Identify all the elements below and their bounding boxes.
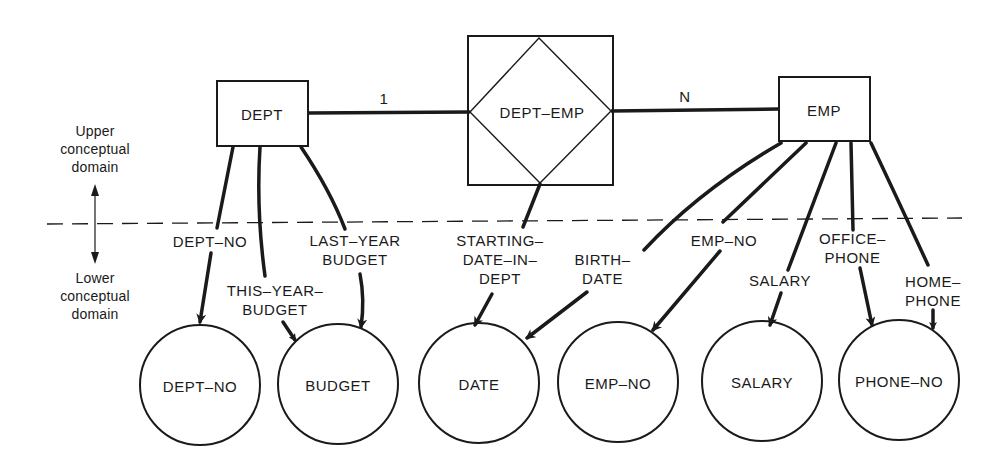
upper-domain-label: Upper conceptual domain: [48, 122, 142, 176]
entity-emp-label: EMP: [807, 102, 841, 119]
attr-line-office-phone-lower: [860, 268, 872, 325]
attr-line-last-year-budget: [301, 147, 345, 229]
attr-line-salary-lower: [770, 293, 781, 325]
value-set-budget-label: BUDGET: [305, 377, 371, 394]
value-set-date-label: DATE: [459, 376, 500, 393]
attr-label-this-year-budget: THIS–YEAR– BUDGET: [215, 281, 335, 319]
attr-line-emp-no-lower: [653, 251, 720, 330]
value-set-emp-no-label: EMP–NO: [585, 375, 651, 392]
value-set-phone-no-label: PHONE–NO: [855, 373, 943, 390]
attr-line-last-year-budget-lower: [360, 274, 363, 327]
attr-line-birth-date-lower: [527, 292, 587, 338]
attr-label-last-year-budget: LAST–YEAR BUDGET: [295, 231, 415, 269]
dept-to-relationship-line: [308, 112, 470, 113]
value-set-dept-no-label: DEPT–NO: [163, 378, 237, 395]
attr-label-emp-no: EMP–NO: [682, 231, 766, 250]
lower-domain-label: Lower conceptual domain: [48, 269, 142, 323]
entity-dept-label: DEPT: [241, 106, 283, 123]
attr-label-starting-date-in-dept: STARTING– DATE–IN– DEPT: [445, 231, 555, 288]
attr-label-salary: SALARY: [740, 271, 820, 290]
attr-line-this-year-budget: [259, 147, 265, 276]
value-set-salary-label: SALARY: [731, 374, 793, 391]
domain-boundary-dashed-line: [47, 218, 962, 224]
attr-line-dept-no-lower: [200, 253, 211, 322]
attr-line-dept-no: [217, 147, 233, 228]
cardinality-right: N: [679, 88, 690, 105]
attr-line-starting-date-in-dept-lower: [475, 294, 492, 325]
relationship-to-emp-line: [611, 109, 779, 111]
relationship-dept-emp-label: DEPT–EMP: [500, 104, 585, 121]
attr-label-birth-date: BIRTH– DATE: [565, 250, 640, 288]
attr-label-office-phone: OFFICE– PHONE: [815, 229, 890, 267]
attr-label-home-phone: HOME– PHONE: [897, 272, 969, 310]
attr-label-dept-no: DEPT–NO: [160, 232, 260, 251]
attr-line-this-year-budget-lower: [283, 322, 295, 340]
cardinality-left: 1: [380, 90, 389, 107]
attr-line-office-phone: [851, 143, 853, 230]
